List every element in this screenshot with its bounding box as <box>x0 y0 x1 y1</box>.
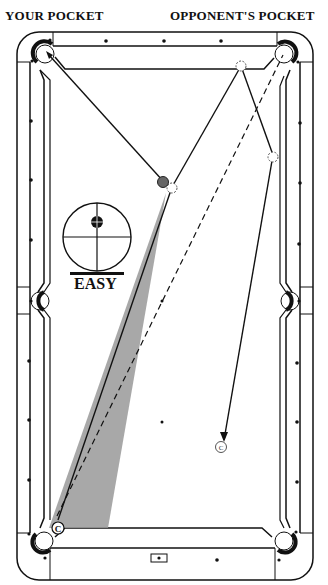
difficulty-label: EASY <box>74 275 117 293</box>
arrow-head <box>220 432 228 442</box>
ghost-ball <box>236 61 246 71</box>
object-ball <box>158 177 169 188</box>
top-right-pocket <box>275 41 300 63</box>
right-side-pocket <box>281 292 301 310</box>
object-ball-path <box>49 55 163 181</box>
bottom-right-pocket <box>275 530 298 561</box>
cue-ball-start-label: C <box>55 524 62 534</box>
left-side-pocket <box>29 292 49 310</box>
crosshair-target-icon <box>63 203 131 275</box>
ghost-ball <box>268 152 278 162</box>
top-left-pocket <box>30 38 54 63</box>
cue-ball-end-label: C <box>219 444 224 452</box>
ghost-ball <box>167 183 177 193</box>
bottom-left-pocket <box>27 532 53 560</box>
pool-table-diagram: C C <box>0 0 328 585</box>
